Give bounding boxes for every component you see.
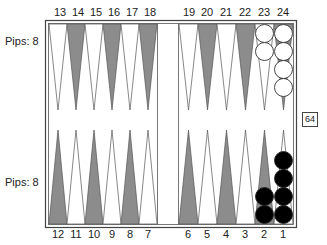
- point-label-2: 2: [254, 228, 274, 240]
- point-label-3: 3: [235, 228, 255, 240]
- black-checker-2-2[interactable]: [256, 188, 274, 206]
- white-checker-23-2[interactable]: [256, 43, 274, 61]
- point-label-7: 7: [138, 228, 158, 240]
- black-checker-2-1[interactable]: [256, 206, 274, 224]
- point-label-11: 11: [66, 228, 86, 240]
- white-checker-24-2[interactable]: [275, 43, 293, 61]
- point-label-12: 12: [48, 228, 68, 240]
- backgammon-board: [0, 0, 327, 245]
- white-checker-24-3[interactable]: [275, 61, 293, 79]
- white-checker-24-1[interactable]: [275, 25, 293, 43]
- point-label-5: 5: [197, 228, 217, 240]
- point-label-10: 10: [84, 228, 104, 240]
- point-label-6: 6: [178, 228, 198, 240]
- point-label-1: 1: [273, 228, 293, 240]
- point-label-9: 9: [102, 228, 122, 240]
- black-checker-1-4[interactable]: [275, 152, 293, 170]
- white-checker-23-1[interactable]: [256, 25, 274, 43]
- black-checker-1-3[interactable]: [275, 170, 293, 188]
- point-label-8: 8: [120, 228, 140, 240]
- black-checker-1-2[interactable]: [275, 188, 293, 206]
- doubling-cube[interactable]: 64: [302, 112, 318, 127]
- white-checker-24-4[interactable]: [275, 79, 293, 97]
- point-label-4: 4: [216, 228, 236, 240]
- black-checker-1-1[interactable]: [275, 206, 293, 224]
